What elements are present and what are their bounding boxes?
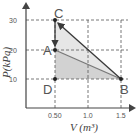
label-b: B [120,82,129,97]
y-axis-label: P(kPa) [0,47,13,79]
label-c: C [54,6,63,21]
y-axis-arrow-icon [22,2,30,9]
point-b [119,77,123,81]
label-a: A [43,43,52,58]
x-tick-10: 1.0 [83,112,93,119]
point-a [53,48,57,52]
x-axis-arrow-icon [129,104,136,112]
x-tick-050: 0.50 [48,112,62,119]
y-tick-30: 30 [9,17,17,24]
x-tick-15: 1.5 [116,112,126,119]
x-axis-label: V (m³) [70,121,98,134]
pv-diagram: C A D B 30 20 10 0.50 1.0 1.5 V (m³) P(k… [0,0,138,137]
label-d: D [43,82,52,97]
point-d [53,77,57,81]
